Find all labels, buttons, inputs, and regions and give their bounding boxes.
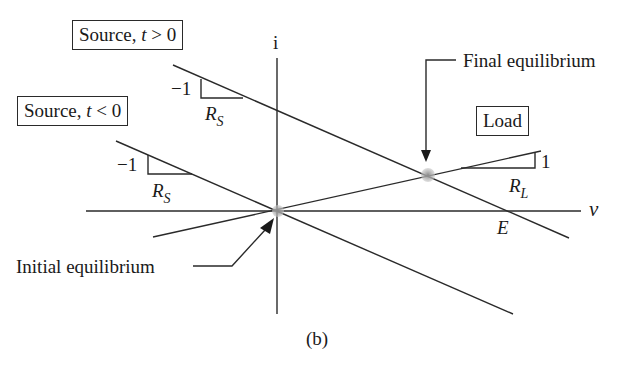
source-before-rel: < 0	[92, 100, 122, 121]
load-line-diagram: Source, t > 0 Source, t < 0 Load i v E −…	[0, 0, 643, 374]
load-run: RL	[509, 176, 528, 195]
final-equilibrium-leader	[426, 60, 456, 150]
final-equilibrium-point	[421, 168, 435, 182]
source-before-run: RS	[152, 181, 171, 200]
v-axis-label: v	[589, 199, 598, 220]
initial-equilibrium-leader	[193, 230, 265, 266]
load-label: Load	[483, 110, 522, 131]
source-before-prefix: Source,	[24, 100, 86, 121]
run-sub: S	[217, 114, 224, 129]
figure-caption: (b)	[306, 329, 328, 348]
source-after-box: Source, t > 0	[72, 20, 183, 50]
final-equilibrium-arrowhead	[421, 150, 431, 162]
source-before-line	[116, 141, 513, 314]
source-before-rise: −1	[117, 155, 137, 174]
run-sub: S	[164, 191, 171, 206]
run-main: R	[205, 103, 217, 124]
initial-equilibrium-arrowhead	[260, 218, 274, 234]
source-after-prefix: Source,	[79, 24, 141, 45]
initial-equilibrium-point	[272, 205, 284, 217]
load-rise: 1	[541, 152, 551, 171]
source-before-box: Source, t < 0	[17, 96, 128, 126]
initial-equilibrium-label: Initial equilibrium	[16, 257, 155, 276]
source-after-rel: > 0	[147, 24, 177, 45]
load-box: Load	[476, 106, 529, 136]
run-sub: L	[521, 186, 529, 201]
source-after-run: RS	[205, 104, 224, 123]
intercept-label: E	[497, 218, 509, 237]
run-main: R	[152, 180, 164, 201]
slope-triangle-source-after	[201, 79, 243, 98]
source-after-rise: −1	[171, 79, 191, 98]
run-main: R	[509, 175, 521, 196]
source-after-line	[173, 65, 569, 238]
load-line	[153, 151, 541, 237]
final-equilibrium-label: Final equilibrium	[463, 51, 595, 70]
i-axis-label: i	[273, 33, 278, 52]
